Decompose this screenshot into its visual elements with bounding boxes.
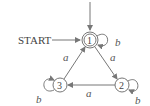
label-2-2: b <box>135 94 141 106</box>
label-3-3: b <box>36 93 42 105</box>
label-1-1: b <box>115 36 121 48</box>
state-1: 1 <box>82 32 98 48</box>
start-label: START <box>18 34 52 46</box>
svg-text:1: 1 <box>87 35 92 46</box>
svg-text:2: 2 <box>119 80 124 91</box>
label-2-3: a <box>86 87 92 99</box>
self-loop-3 <box>44 79 54 91</box>
label-1-2: a <box>110 51 116 63</box>
state-2: 2 <box>115 78 129 92</box>
automaton-diagram: START 1 b 2 b 3 b a a a <box>0 0 150 106</box>
svg-text:3: 3 <box>57 80 62 91</box>
self-loop-1 <box>97 34 108 46</box>
label-3-1: a <box>63 51 69 63</box>
state-3: 3 <box>53 78 67 92</box>
